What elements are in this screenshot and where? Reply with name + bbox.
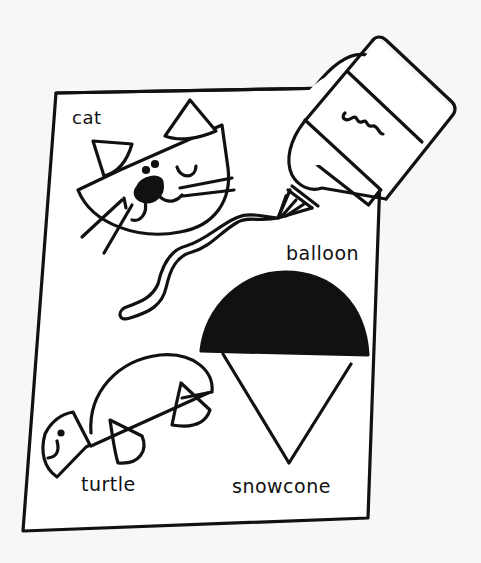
label-balloon: balloon	[286, 244, 359, 263]
illustration-canvas: cat balloon turtle snowcone	[0, 0, 481, 563]
label-cat: cat	[72, 109, 101, 127]
label-turtle: turtle	[81, 475, 136, 494]
label-snowcone: snowcone	[232, 477, 331, 496]
